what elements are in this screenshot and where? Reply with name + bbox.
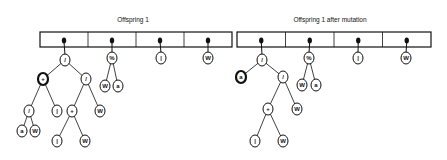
node-label: W bbox=[280, 138, 286, 144]
tree-node: + bbox=[67, 105, 77, 117]
node-label: + bbox=[41, 76, 45, 82]
tree-node: W bbox=[401, 52, 411, 64]
node-label: % bbox=[306, 55, 312, 61]
pointer-dot bbox=[206, 38, 210, 44]
tree-node: a bbox=[113, 80, 123, 92]
tree-node: W bbox=[80, 135, 90, 147]
tree-node: / bbox=[60, 54, 70, 66]
node-label: W bbox=[205, 55, 211, 61]
pointer-dot bbox=[405, 38, 409, 44]
pointer-dot bbox=[62, 38, 66, 44]
panel-title: Offspring 1 bbox=[117, 16, 149, 24]
panel-title: Offspring 1 after mutation bbox=[293, 16, 367, 24]
node-label: + bbox=[266, 106, 270, 112]
node-label: W bbox=[102, 83, 108, 89]
node-label: W bbox=[294, 106, 300, 112]
tree-node: % bbox=[107, 52, 117, 64]
tree-node: W bbox=[30, 125, 40, 137]
panel-offspring-1-mutated: Offspring 1 after mutation /a/+W|W%Wa|W bbox=[236, 16, 431, 147]
node-label: % bbox=[109, 55, 115, 61]
tree-node: W bbox=[100, 80, 110, 92]
offspring-1-tree: /+//|aW+W|W%Wa|W bbox=[17, 32, 232, 147]
tree-node: | bbox=[156, 52, 166, 64]
tree-node: + bbox=[263, 103, 273, 115]
pointer-line bbox=[64, 42, 65, 56]
tree-node: / bbox=[257, 54, 267, 66]
pointer-dot bbox=[259, 38, 263, 44]
tree-node: W bbox=[203, 52, 213, 64]
tree-node: | bbox=[52, 135, 62, 147]
tree-node: / bbox=[24, 105, 34, 117]
node-label: W bbox=[82, 138, 88, 144]
gp-mutation-diagram: Offspring 1 /+//|aW+W|W%Wa|W Offspring 1… bbox=[0, 0, 447, 160]
tree-node: W bbox=[297, 79, 307, 91]
node-label: + bbox=[70, 108, 74, 114]
pointer-line bbox=[261, 42, 262, 56]
tree-node: a bbox=[311, 79, 321, 91]
tree-node: / bbox=[278, 71, 288, 83]
tree-node: | bbox=[250, 135, 260, 147]
node-label: W bbox=[97, 108, 103, 114]
pointer-dot bbox=[356, 38, 360, 44]
pointer-dot bbox=[308, 38, 312, 44]
node-label: W bbox=[32, 128, 38, 134]
offspring-1-mutated-tree: /a/+W|W%Wa|W bbox=[236, 32, 431, 147]
tree-node: W bbox=[278, 135, 288, 147]
tree-node: | bbox=[353, 52, 363, 64]
tree-node: / bbox=[81, 73, 91, 85]
node-label: W bbox=[299, 82, 305, 88]
pointer-dot bbox=[158, 38, 162, 44]
tree-node: a bbox=[17, 125, 27, 137]
tree-node: a bbox=[236, 71, 246, 83]
pointer-dot bbox=[110, 38, 114, 44]
node-label: W bbox=[403, 55, 409, 61]
tree-node: | bbox=[52, 105, 62, 117]
tree-node: W bbox=[292, 103, 302, 115]
tree-node: % bbox=[304, 52, 314, 64]
panel-offspring-1: Offspring 1 /+//|aW+W|W%Wa|W bbox=[17, 16, 232, 147]
tree-node: W bbox=[95, 105, 105, 117]
tree-node: + bbox=[38, 73, 48, 85]
